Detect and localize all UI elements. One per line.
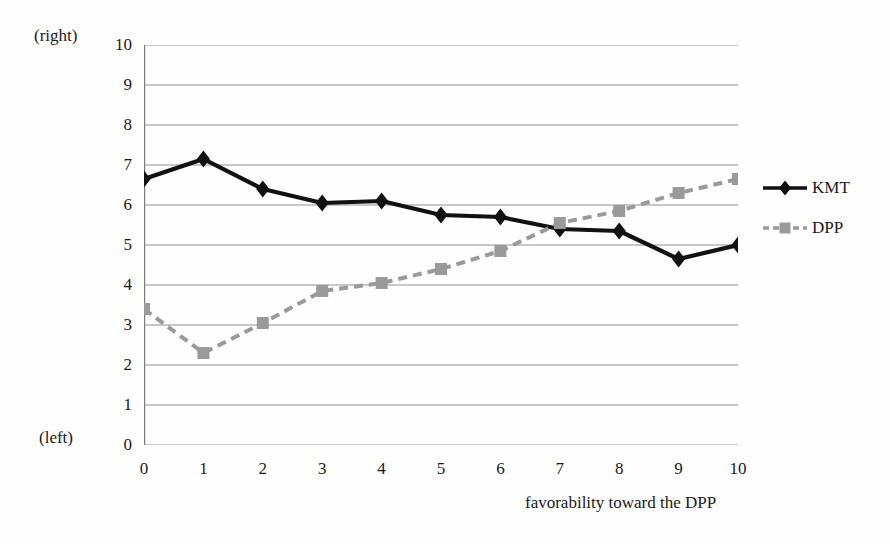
x-axis-tick-label: 7 [540, 460, 580, 477]
data-point-marker [672, 251, 685, 268]
y-axis-tick-label: 10 [102, 36, 132, 53]
y-axis-tick-label: 8 [102, 116, 132, 133]
data-point-marker [197, 347, 209, 359]
legend-item-kmt: KMT [762, 168, 882, 208]
y-axis-tick-label: 4 [102, 276, 132, 293]
data-point-marker [144, 303, 150, 315]
legend-label-dpp: DPP [808, 218, 843, 238]
x-axis-tick-label: 3 [302, 460, 342, 477]
y-axis-tick-label: 1 [102, 396, 132, 413]
y-axis-tick-label: 3 [102, 316, 132, 333]
series-markers-kmt [144, 151, 738, 268]
x-axis-title: favorability toward the DPP [525, 493, 716, 513]
y-axis-tick-label: 9 [102, 76, 132, 93]
legend-label-kmt: KMT [808, 178, 850, 198]
data-point-marker [732, 173, 738, 185]
x-axis-tick-label: 9 [659, 460, 699, 477]
y-axis-top-note: (right) [34, 26, 77, 46]
data-point-marker [673, 187, 685, 199]
x-axis-tick-label: 5 [421, 460, 461, 477]
data-point-marker [376, 277, 388, 289]
y-axis-bottom-note: (left) [39, 428, 73, 448]
data-point-marker [256, 181, 269, 198]
data-point-marker [613, 205, 625, 217]
plot-area [144, 45, 738, 445]
chart-container: (right) (left) 012345678910 012345678910… [0, 0, 890, 544]
legend-swatch-dpp-square-icon [762, 219, 808, 237]
y-axis-tick-label: 2 [102, 356, 132, 373]
x-axis-tick-label: 0 [124, 460, 164, 477]
data-point-marker [257, 317, 269, 329]
y-axis-tick-label: 7 [102, 156, 132, 173]
data-point-marker [494, 209, 507, 226]
data-point-marker [375, 193, 388, 210]
x-axis-tick-label: 10 [718, 460, 758, 477]
x-axis-tick-label: 1 [183, 460, 223, 477]
y-axis-tick-label: 6 [102, 196, 132, 213]
data-point-marker [613, 223, 626, 240]
x-axis-tick-label: 4 [362, 460, 402, 477]
data-point-marker [316, 195, 329, 212]
data-point-marker [435, 263, 447, 275]
data-point-marker [731, 237, 738, 254]
y-axis-tick-label: 5 [102, 236, 132, 253]
data-point-marker [554, 217, 566, 229]
chart-legend: KMT DPP [762, 168, 882, 248]
data-point-marker [316, 285, 328, 297]
data-point-marker [434, 207, 447, 224]
y-axis-tick-label: 0 [102, 436, 132, 453]
legend-swatch-kmt-diamond-icon [762, 179, 808, 197]
legend-item-dpp: DPP [762, 208, 882, 248]
x-axis-tick-label: 2 [243, 460, 283, 477]
data-point-marker [144, 171, 151, 188]
x-axis-tick-label: 6 [480, 460, 520, 477]
data-point-marker [494, 245, 506, 257]
x-axis-tick-label: 8 [599, 460, 639, 477]
plot-svg [144, 45, 738, 445]
